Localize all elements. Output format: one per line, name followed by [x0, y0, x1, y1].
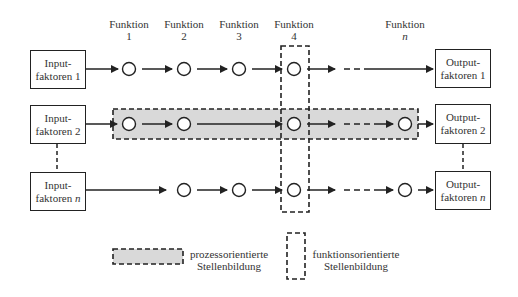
legend-function-swatch — [287, 233, 305, 279]
function-header-1: Funktion1 — [106, 18, 152, 42]
diagram: Funktion1 Funktion2 Funktion3 Funktion4 … — [0, 0, 518, 297]
legend-process-label: prozessorientierteStellenbildung — [188, 248, 270, 272]
output-box-n: Output-faktoren n — [435, 171, 491, 210]
legend-process-swatch — [113, 249, 183, 264]
input-box-2: Input-faktoren 2 — [30, 105, 86, 144]
function-header-3: Funktion3 — [216, 18, 262, 42]
function-header-2: Funktion2 — [161, 18, 207, 42]
output-box-1: Output-faktoren 1 — [435, 49, 491, 88]
output-box-2: Output-faktoren 2 — [435, 104, 491, 144]
function-header-n: Funktionn — [382, 18, 428, 42]
input-box-1: Input-faktoren 1 — [30, 50, 86, 89]
function-header-4: Funktion4 — [271, 18, 317, 42]
legend-function-label: funktionsorientierteStellenbildung — [308, 248, 404, 272]
input-box-n: Input-faktoren n — [30, 172, 86, 211]
